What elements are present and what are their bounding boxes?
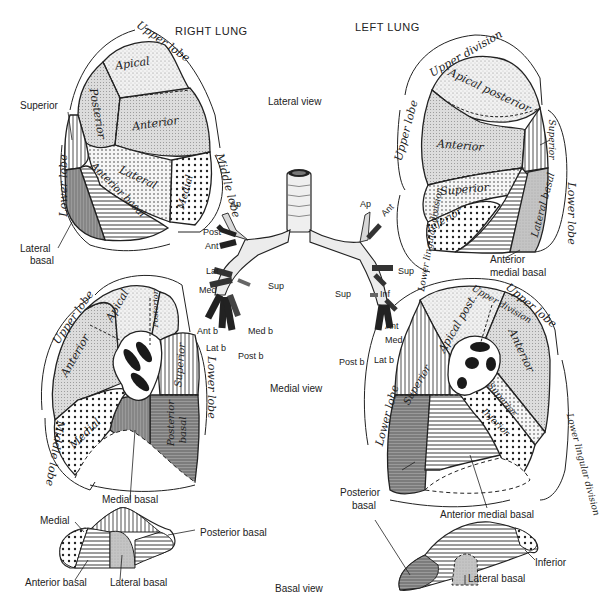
right-lung-heading: RIGHT LUNG bbox=[175, 26, 248, 37]
bronchus-right-post: Post bbox=[203, 228, 221, 237]
bronchus-right-ap: Ap bbox=[230, 200, 241, 209]
bronchus-right-med: Med bbox=[199, 286, 217, 295]
bronchus-right-sup: Sup bbox=[268, 282, 284, 291]
callout-posterior-basal: Posterior basal bbox=[200, 528, 267, 538]
right-medial-lower-lobe-label: Lower lobe bbox=[206, 356, 217, 418]
right-lower-lobe-label: Lower lobe bbox=[58, 154, 69, 216]
left-lower-lobe-label: Lower lobe bbox=[566, 182, 577, 244]
callout-anterior-medial-basal-line2: medial basal bbox=[490, 268, 546, 278]
bronchus-right-ant: Ant bbox=[205, 242, 219, 251]
lateral-view-label: Lateral view bbox=[268, 97, 321, 107]
bronchus-left-ap: Ap bbox=[360, 200, 371, 209]
callout-medial: Medial bbox=[40, 516, 69, 526]
callout-medial-basal: Medial basal bbox=[102, 495, 158, 505]
bronchus-left-inf: Inf bbox=[380, 290, 390, 299]
bronchus-left-med: Med bbox=[385, 336, 403, 345]
callout-posterior-basal-line1: Posterior bbox=[340, 488, 380, 498]
segment-posterior-basal-line2: basal bbox=[178, 417, 188, 444]
callout-anterior-basal: Anterior basal bbox=[25, 578, 87, 588]
bronchus-left-ant: Ant bbox=[385, 322, 399, 331]
segment-superior: Superior bbox=[547, 120, 556, 160]
segment-posterior: Posterior bbox=[152, 291, 160, 328]
bronchus-right-post-b: Post b bbox=[238, 352, 264, 361]
bronchus-right-med-b: Med b bbox=[248, 327, 273, 336]
callout-inferior: Inferior bbox=[535, 558, 566, 568]
right-lung-medial-view bbox=[41, 275, 206, 500]
medial-view-label: Medial view bbox=[270, 384, 322, 394]
basal-view-label: Basal view bbox=[275, 584, 323, 594]
bronchus-right-lat-b: Lat b bbox=[206, 344, 226, 353]
callout-lateral-basal: Lateral basal bbox=[110, 578, 167, 588]
callout-anterior-medial-basal: Anterior medial basal bbox=[440, 510, 534, 520]
callout-anterior-medial-basal-line1: Anterior bbox=[490, 255, 525, 265]
callout-posterior-basal-line2: basal bbox=[352, 501, 376, 511]
bronchus-left-lat-b: Lat b bbox=[374, 356, 394, 365]
bronchus-left-sup: Sup bbox=[335, 290, 351, 299]
right-lung-basal-view bbox=[60, 508, 195, 580]
callout-lateral-basal-line1: Lateral bbox=[20, 244, 51, 254]
callout-lateral-basal: Lateral basal bbox=[468, 574, 525, 584]
bronchus-left-post-b: Post b bbox=[339, 358, 365, 367]
callout-lateral-basal-line2: basal bbox=[30, 256, 54, 266]
bronchus-left-sup-lingular: Sup bbox=[398, 267, 414, 276]
bronchus-right-lat: Lat bbox=[206, 267, 219, 276]
left-lung-heading: LEFT LUNG bbox=[355, 22, 420, 33]
bronchus-right-ant-b: Ant b bbox=[197, 327, 218, 336]
segment-posterior-basal-line1: Posterior bbox=[166, 400, 176, 446]
callout-superior: Superior bbox=[20, 101, 58, 111]
